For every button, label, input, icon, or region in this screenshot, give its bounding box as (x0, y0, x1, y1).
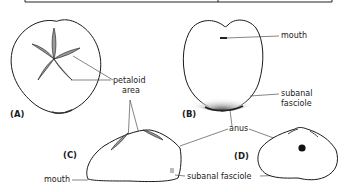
panel-c-lateral-view (87, 130, 181, 182)
subanal-fasciole-label: subanal fasciole (187, 172, 252, 181)
petaloid-area-label-line1: petaloid (113, 76, 145, 85)
mouth-marker (220, 37, 227, 39)
subanal-label-line1: subanal (281, 89, 312, 98)
panel-a-aboral-view (11, 20, 101, 113)
panel-label-d: (D) (234, 151, 249, 161)
panel-d-posterior-view (258, 128, 338, 180)
panel-b-oral-view (183, 20, 263, 111)
anus-label: anus (229, 124, 248, 133)
heart-urchin-diagram: (A) petaloid area mouth subanal fasciole… (0, 0, 360, 192)
top-frame (25, 0, 332, 2)
mouth-label-b: mouth (281, 31, 307, 40)
panel-label-b: (B) (182, 109, 196, 119)
anus-marker (298, 144, 305, 151)
petaloid-area-label-line2: area (122, 86, 140, 95)
panel-label-a: (A) (10, 109, 24, 119)
mouth-label-c: mouth (44, 175, 70, 184)
panel-label-c: (C) (63, 150, 77, 160)
subanal-label-line2: fasciole (281, 99, 312, 108)
